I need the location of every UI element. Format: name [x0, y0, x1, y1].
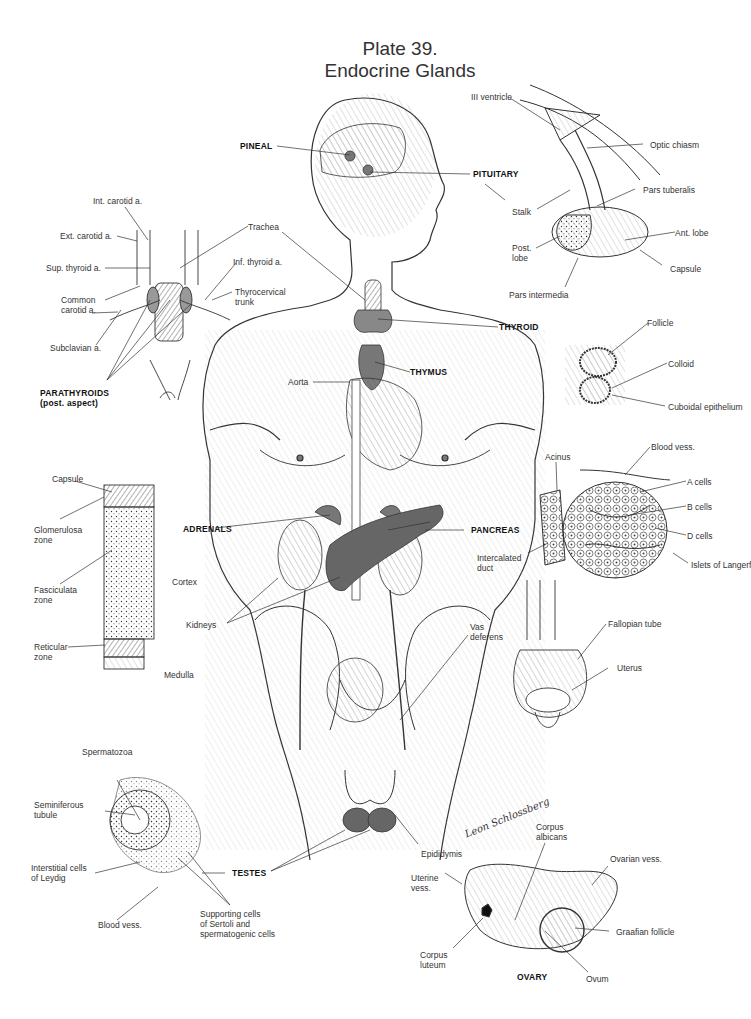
label-pineal: PINEAL — [240, 141, 272, 151]
label-pars-tuberalis: Pars tuberalis — [643, 185, 695, 195]
label-colloid: Colloid — [668, 359, 694, 369]
label-pituitary: PITUITARY — [473, 169, 519, 179]
label-supporting-cells: Supporting cells of Sertoli and spermato… — [200, 909, 275, 939]
plate-number: Plate 39. — [300, 38, 500, 60]
label-thyrocervical-trunk: Thyrocervical trunk — [235, 287, 286, 307]
label-thyroid: THYROID — [499, 322, 539, 332]
label-post-lobe: Post. lobe — [512, 243, 531, 263]
label-medulla: Medulla — [164, 670, 194, 680]
label-capsule-pituitary: Capsule — [670, 264, 701, 274]
label-aorta: Aorta — [288, 377, 308, 387]
pituitary-detail — [520, 85, 660, 257]
body-figure — [203, 93, 545, 860]
label-corpus-albicans: Corpus albicans — [536, 822, 567, 842]
label-int-carotid: Int. carotid a. — [93, 196, 142, 206]
label-uterus: Uterus — [617, 663, 642, 673]
label-cuboidal-epithelium: Cuboidal epithelium — [668, 402, 743, 412]
label-b-cells: B cells — [687, 502, 712, 512]
label-pancreas: PANCREAS — [471, 525, 520, 535]
label-stalk: Stalk — [512, 207, 531, 217]
label-subclavian: Subclavian a. — [50, 343, 101, 353]
label-ovarian-vess: Ovarian vess. — [610, 854, 662, 864]
plate-title: Endocrine Glands — [300, 60, 500, 82]
label-pars-intermedia: Pars intermedia — [509, 290, 569, 300]
label-blood-vess-testis: Blood vess. — [98, 920, 142, 930]
label-fallopian-tube: Fallopian tube — [608, 619, 661, 629]
label-parathyroids: PARATHYROIDS (post. aspect) — [40, 388, 109, 408]
label-optic-chiasm: Optic chiasm — [650, 140, 699, 150]
label-corpus-luteum: Corpus luteum — [420, 950, 447, 970]
label-reticular-zone: Reticular zone — [34, 642, 68, 662]
label-graafian-follicle: Graafian follicle — [616, 927, 675, 937]
label-blood-vess-pancreas: Blood vess. — [651, 442, 695, 452]
label-uterine-vess: Uterine vess. — [411, 873, 438, 893]
label-spermatozoa: Spermatozoa — [82, 747, 133, 757]
label-capsule-adrenal: Capsule — [52, 474, 83, 484]
label-inf-thyroid: Inf. thyroid a. — [233, 257, 282, 267]
label-epididymis: Epididymis — [421, 849, 462, 859]
label-interstitial-cells: Interstitial cells of Leydig — [31, 863, 87, 883]
label-common-carotid: Common carotid a. — [61, 295, 96, 315]
label-glomerulosa-zone: Glomerulosa zone — [34, 525, 82, 545]
label-fasciculata-zone: Fasciculata zone — [34, 585, 77, 605]
anatomy-illustration — [0, 0, 751, 1019]
label-intercalated-duct: Intercalated duct — [477, 553, 521, 573]
label-trachea: Trachea — [248, 222, 279, 232]
label-cortex: Cortex — [172, 577, 197, 587]
label-ovum: Ovum — [586, 974, 609, 984]
label-islets-of-langerhans: Islets of Langerf — [691, 560, 751, 570]
label-acinus: Acinus — [545, 452, 571, 462]
label-ovary: OVARY — [517, 972, 547, 982]
label-thymus: THYMUS — [410, 367, 447, 377]
label-a-cells: A cells — [687, 477, 712, 487]
pancreas-islet-detail — [540, 470, 670, 578]
label-vas-deferens: Vas deferens — [470, 622, 503, 642]
label-testes: TESTES — [232, 868, 266, 878]
label-iii-ventricle: III ventricle — [471, 92, 512, 102]
label-ant-lobe: Ant. lobe — [675, 228, 709, 238]
label-d-cells: D cells — [687, 531, 713, 541]
ovary-detail — [465, 864, 617, 952]
label-follicle: Follicle — [647, 318, 673, 328]
label-seminiferous-tubule: Seminiferous tubule — [34, 800, 84, 820]
label-sup-thyroid: Sup. thyroid a. — [46, 263, 101, 273]
adrenal-section-detail — [104, 485, 154, 669]
label-kidneys: Kidneys — [186, 620, 216, 630]
label-ext-carotid: Ext. carotid a. — [60, 231, 112, 241]
label-adrenals: ADRENALS — [183, 524, 232, 534]
